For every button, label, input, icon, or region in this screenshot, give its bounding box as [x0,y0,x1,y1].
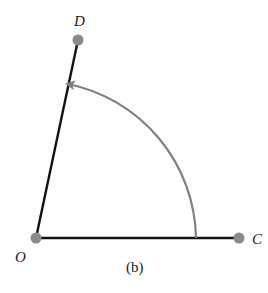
rotation-arc-arrow [68,84,196,238]
point-o [31,233,42,244]
label-o: O [15,249,26,265]
figure-caption: (b) [126,259,144,276]
point-c [234,233,245,244]
label-d: D [73,13,85,29]
point-d [73,35,84,46]
label-c: C [252,231,263,247]
segment-od [36,40,78,238]
rotation-diagram: D O C (b) [0,0,268,293]
